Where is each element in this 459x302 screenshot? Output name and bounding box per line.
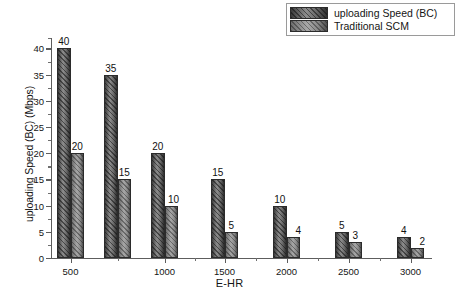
y-tick-mark-minor (48, 62, 51, 63)
bar-value-label: 4 (295, 225, 301, 236)
bar-value-label: 4 (401, 225, 407, 236)
x-tick-mark-3000 (411, 258, 412, 263)
y-tick-mark (46, 48, 51, 49)
x-tick-label-2500: 2500 (338, 266, 359, 277)
x-tick-mark-500 (71, 258, 72, 263)
bar-value-label: 3 (352, 230, 358, 241)
legend-item-uploading-speed-bc: uploading Speed (BC) (290, 6, 451, 19)
bar-traditional-scm-2: 10 (165, 206, 179, 258)
bar-uploading-speed-bc-2: 20 (151, 153, 165, 258)
y-tick-mark-minor (48, 38, 51, 39)
x-tick-mark-1500 (225, 258, 226, 263)
x-axis-line (51, 258, 432, 259)
y-tick-mark-minor (48, 193, 51, 194)
bar-traditional-scm-0: 20 (71, 153, 85, 258)
y-tick-mark (46, 179, 51, 180)
y-tick-label: 35 (33, 69, 44, 80)
bar-uploading-speed-bc-1: 35 (104, 75, 118, 258)
y-tick-label: 10 (33, 200, 44, 211)
bar-value-label: 5 (228, 220, 234, 231)
bar-traditional-scm-5: 3 (349, 242, 363, 258)
y-tick-label: 40 (33, 43, 44, 54)
legend-label-traditional-scm: Traditional SCM (334, 20, 409, 32)
plot-area: 0510152025303540 50010001500200025003000… (51, 38, 432, 258)
bar-traditional-scm-3: 5 (225, 232, 239, 258)
y-tick-label: 25 (33, 122, 44, 133)
x-tick-mark-minor (380, 258, 381, 261)
bar-uploading-speed-bc-4: 10 (273, 206, 287, 258)
x-tick-mark-minor (118, 258, 119, 261)
legend-label-uploading-speed-bc: uploading Speed (BC) (334, 7, 437, 19)
y-tick-label: 20 (33, 148, 44, 159)
y-tick-mark (46, 153, 51, 154)
bar-value-label: 20 (72, 141, 83, 152)
x-tick-mark-2000 (287, 258, 288, 263)
y-tick-label: 15 (33, 174, 44, 185)
bar-traditional-scm-1: 15 (118, 179, 132, 258)
bar-value-label: 2 (419, 236, 425, 247)
bar-value-label: 20 (152, 141, 163, 152)
legend-swatch-traditional-scm (290, 20, 328, 32)
y-tick-mark-minor (48, 219, 51, 220)
bar-uploading-speed-bc-5: 5 (335, 232, 349, 258)
bar-value-label: 10 (274, 194, 285, 205)
y-tick-mark-minor (48, 140, 51, 141)
y-tick-mark (46, 127, 51, 128)
y-axis-line (51, 38, 52, 258)
chart-figure: uploading Speed (BC) (Mbps) E-HR 0510152… (0, 0, 459, 302)
bar-value-label: 5 (339, 220, 345, 231)
legend-item-traditional-scm: Traditional SCM (290, 19, 451, 32)
x-tick-label-2000: 2000 (276, 266, 297, 277)
x-tick-mark-minor (195, 258, 196, 261)
x-tick-label-3000: 3000 (400, 266, 421, 277)
x-tick-label-500: 500 (63, 266, 79, 277)
bar-traditional-scm-6: 2 (411, 248, 425, 258)
bar-value-label: 40 (58, 36, 69, 47)
y-tick-label: 30 (33, 95, 44, 106)
bar-value-label: 35 (105, 63, 116, 74)
bar-uploading-speed-bc-0: 40 (57, 48, 71, 258)
x-tick-mark-minor (256, 258, 257, 261)
y-tick-mark (46, 258, 51, 259)
x-tick-mark-minor (318, 258, 319, 261)
bar-traditional-scm-4: 4 (287, 237, 301, 258)
bar-uploading-speed-bc-3: 15 (211, 179, 225, 258)
bar-value-label: 15 (119, 167, 130, 178)
chart-legend: uploading Speed (BC) Traditional SCM (286, 3, 455, 36)
legend-swatch-uploading-speed-bc (290, 7, 328, 19)
y-tick-mark-minor (48, 166, 51, 167)
bar-uploading-speed-bc-6: 4 (397, 237, 411, 258)
bar-value-label: 15 (212, 167, 223, 178)
y-tick-mark (46, 232, 51, 233)
x-axis-title: E-HR (0, 277, 459, 289)
y-tick-label: 0 (39, 253, 44, 264)
y-tick-mark-minor (48, 114, 51, 115)
y-tick-label: 5 (39, 226, 44, 237)
y-tick-mark-minor (48, 245, 51, 246)
y-tick-mark (46, 101, 51, 102)
x-tick-mark-1000 (165, 258, 166, 263)
bar-value-label: 10 (168, 194, 179, 205)
y-tick-mark (46, 206, 51, 207)
x-tick-label-1000: 1000 (154, 266, 175, 277)
x-tick-label-1500: 1500 (214, 266, 235, 277)
y-tick-mark (46, 75, 51, 76)
y-tick-mark-minor (48, 88, 51, 89)
x-tick-mark-2500 (349, 258, 350, 263)
